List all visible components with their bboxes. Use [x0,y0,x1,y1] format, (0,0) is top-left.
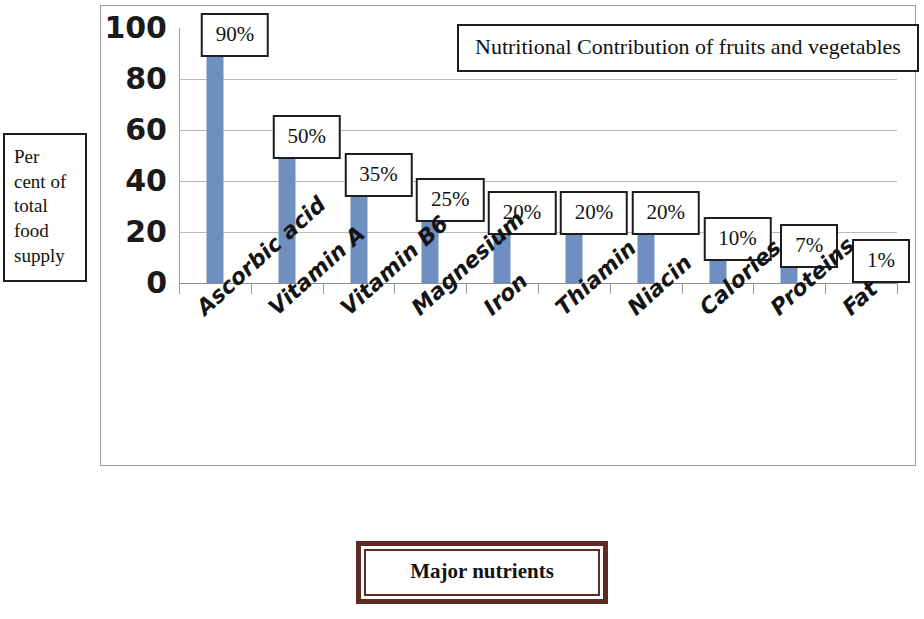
y-axis-tick-label: 60 [125,115,167,145]
y-axis-tick-label: 0 [146,268,167,298]
y-axis-tick-label: 40 [125,166,167,196]
x-axis-tick [466,283,467,294]
x-axis-tick [538,283,539,294]
bar[interactable] [206,54,223,284]
x-axis-tick [251,283,252,294]
x-axis-tick [682,283,683,294]
x-axis-tick [610,283,611,294]
y-axis-tick-label: 20 [125,217,167,247]
chart-frame: Nutritional Contribution of fruits and v… [100,5,916,466]
x-axis-tick [394,283,395,294]
y-axis-title-line: total [14,194,77,219]
data-label: 90% [201,13,270,57]
x-axis-title-box: Major nutrients [356,541,608,604]
y-axis-title: Percent oftotalfoodsupply [3,133,87,282]
x-axis-tick [753,283,754,294]
y-axis-title-line: food [14,219,77,244]
x-axis-tick [825,283,826,294]
y-axis-tick-label: 100 [104,13,167,43]
data-label: 35% [344,153,413,197]
x-axis-tick [897,283,898,294]
x-axis-tick [323,283,324,294]
y-axis-title-line: cent of [14,170,77,195]
data-label: 20% [560,191,629,235]
data-label: 20% [631,191,700,235]
gridline [179,79,897,80]
data-label: 1% [852,239,910,283]
data-label: 50% [272,115,341,159]
y-axis-tick-label: 80 [125,64,167,94]
x-axis-title-label: Major nutrients [364,549,600,596]
data-label: 25% [416,178,485,222]
y-axis-line [179,28,180,283]
x-axis-tick [179,283,180,294]
y-axis-title-line: Per [14,145,77,170]
y-axis-title-line: supply [14,244,77,269]
